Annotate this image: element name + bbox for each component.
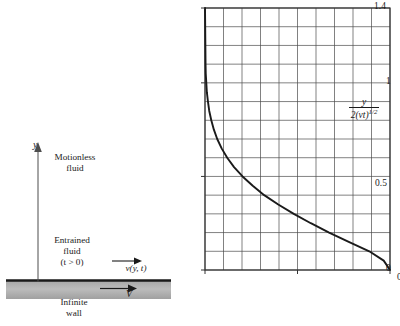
motionless-fluid-line-2: fluid xyxy=(66,163,83,173)
motionless-fluid-line-1: Motionless xyxy=(55,152,96,162)
y-axis-title: y 2(vt)1/2 xyxy=(336,97,392,121)
y-tick-label-0: 0 xyxy=(386,263,391,273)
wall-velocity-label: V xyxy=(126,288,132,299)
y-tick-label-0-5: 0.5 xyxy=(375,178,387,188)
chart-canvas xyxy=(196,0,400,326)
y-axis-title-denominator-base: 2(vt) xyxy=(351,110,369,120)
entrained-fluid-line-2: fluid xyxy=(63,246,80,256)
infinite-wall-line-1: Infinite xyxy=(60,297,87,307)
chart-axis-ticks xyxy=(201,8,390,274)
y-tick-label-1-4: 1.4 xyxy=(374,1,386,11)
infinite-wall-label: Infinite wall xyxy=(38,297,110,319)
flow-schematic: y Motionless fluid Entrained fluid (t > … xyxy=(0,0,196,326)
entrained-fluid-time-condition: (t > 0) xyxy=(60,257,83,267)
stokes-first-problem-figure: y Motionless fluid Entrained fluid (t > … xyxy=(0,0,400,326)
similarity-profile-chart: 1.4 1 0.5 0 0 0.5 1 y 2(vt)1/2 v V xyxy=(196,0,400,326)
motionless-fluid-label: Motionless fluid xyxy=(36,152,114,174)
entrained-fluid-label: Entrained fluid (t > 0) xyxy=(32,235,112,268)
velocity-profile-label: v(y, t) xyxy=(106,263,166,274)
y-axis-title-denominator: 2(vt)1/2 xyxy=(349,107,380,120)
y-axis-title-fraction: y 2(vt)1/2 xyxy=(349,97,380,121)
y-axis-title-numerator: y xyxy=(349,97,380,107)
chart-gridlines xyxy=(205,8,390,270)
entrained-fluid-line-1: Entrained xyxy=(54,235,90,245)
y-axis-title-denominator-exponent: 1/2 xyxy=(369,108,378,115)
y-tick-label-1: 1 xyxy=(386,76,391,86)
y-axis-label: y xyxy=(33,139,37,150)
infinite-wall-line-2: wall xyxy=(66,308,82,318)
